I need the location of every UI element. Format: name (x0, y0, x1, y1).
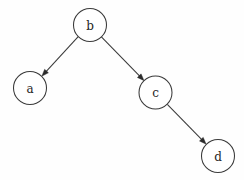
node-a[interactable]: a (14, 72, 47, 105)
node-layer: b a c d (14, 9, 235, 173)
node-label-b: b (86, 19, 94, 33)
edge-c-to-d (167, 104, 206, 144)
edge-line-b-a (46, 37, 78, 72)
tree-diagram-canvas: b a c d (0, 0, 244, 180)
edge-layer (42, 37, 206, 145)
node-label-d: d (214, 150, 222, 164)
edge-b-to-a (42, 37, 78, 77)
edge-line-c-d (167, 104, 202, 140)
graph-svg: b a c d (0, 0, 244, 180)
node-label-a: a (26, 82, 33, 96)
node-label-c: c (152, 86, 159, 100)
edge-line-b-c (101, 37, 140, 77)
node-c[interactable]: c (139, 76, 172, 109)
node-b[interactable]: b (74, 9, 107, 42)
node-d[interactable]: d (202, 140, 235, 173)
edge-b-to-c (101, 37, 144, 81)
